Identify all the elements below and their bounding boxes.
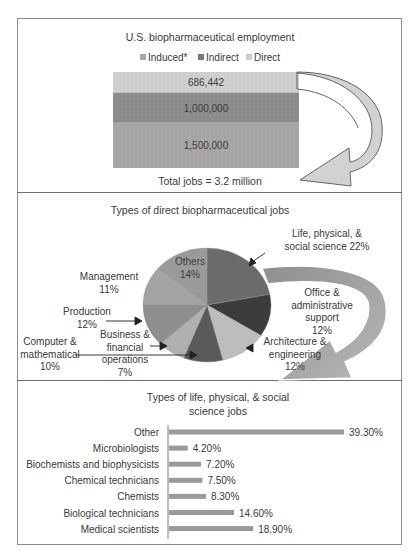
- pie-label: 14%: [180, 269, 200, 280]
- bar-value-label: 7.50%: [207, 475, 235, 486]
- chart3-title-line2: science jobs: [189, 405, 247, 417]
- employment-chart: U.S. biopharmaceutical employment Induce…: [113, 31, 382, 187]
- legend-label-indirect: Indirect: [206, 52, 239, 63]
- curved-arrow-icon: [262, 266, 386, 380]
- legend-swatch-induced: [140, 54, 146, 60]
- bar-value-label: 39.30%: [349, 427, 383, 438]
- bar: [169, 526, 253, 531]
- pie-label: Others: [175, 256, 205, 267]
- pie-label: Office &: [304, 287, 340, 298]
- legend-swatch-direct: [246, 54, 252, 60]
- bar-value-label: 14.60%: [239, 508, 273, 519]
- pie-label: 12%: [285, 361, 305, 372]
- bars: Other39.30%Microbiologists4.20%Biochemis…: [26, 427, 383, 535]
- curved-arrow-icon: [297, 72, 382, 186]
- bar: [169, 462, 201, 467]
- bar: [169, 510, 234, 515]
- pie-label: Computer &: [23, 336, 77, 347]
- arrow-icon: [249, 258, 256, 266]
- legend-swatch-indirect: [198, 54, 204, 60]
- pie-label: support: [305, 312, 339, 323]
- pie-label: 12%: [77, 319, 97, 330]
- bar: [169, 430, 344, 435]
- legend-label-induced: Induced*: [148, 52, 188, 63]
- pie-label: administrative: [291, 300, 353, 311]
- bar-value-label: 8.30%: [211, 491, 239, 502]
- pie-label: 11%: [99, 284, 118, 295]
- stacked-bar: 686,4421,000,0001,500,000: [113, 72, 299, 168]
- bar-value-label: 18.90%: [258, 524, 292, 535]
- legend-label-direct: Direct: [254, 52, 280, 63]
- pie-label: engineering: [269, 349, 321, 360]
- bar-category-label: Chemical technicians: [65, 475, 160, 486]
- bar-category-label: Biological technicians: [63, 508, 159, 519]
- stack-segment-label: 1,500,000: [184, 140, 229, 151]
- pie-label: 7%: [118, 367, 133, 378]
- pie-label: Architecture &: [264, 336, 327, 347]
- bar-category-label: Biochemists and biophysicists: [26, 459, 159, 470]
- bar: [169, 494, 206, 499]
- bar-category-label: Microbiologists: [93, 443, 159, 454]
- pie-label: 10%: [40, 361, 60, 372]
- pie-label: Life, physical, &: [292, 228, 362, 239]
- pie-label: Production: [63, 306, 111, 317]
- bar-category-label: Chemists: [117, 491, 159, 502]
- pie-label: operations: [102, 354, 149, 365]
- pie-label: Management: [80, 271, 139, 282]
- bar-category-label: Other: [134, 427, 160, 438]
- chart1-title: U.S. biopharmaceutical employment: [126, 31, 295, 43]
- pie-label: social science 22%: [284, 241, 369, 252]
- chart1-legend: Induced* Indirect Direct: [140, 52, 280, 63]
- arrow-icon: [135, 317, 142, 325]
- bar: [169, 446, 188, 451]
- bar-value-label: 7.20%: [206, 459, 234, 470]
- bar-category-label: Medical scientists: [81, 524, 159, 535]
- chart3-title-line1: Types of life, physical, & social: [147, 391, 289, 403]
- infographic-svg: U.S. biopharmaceutical employment Induce…: [0, 0, 417, 557]
- pie-label: 12%: [312, 325, 332, 336]
- chart2-title: Types of direct biopharmaceutical jobs: [111, 204, 290, 216]
- pie-label: mathematical: [20, 349, 79, 360]
- pie-label: Business &: [100, 329, 150, 340]
- bar: [169, 478, 202, 483]
- pie-label: financial: [107, 342, 144, 353]
- stack-segment-label: 686,442: [188, 77, 225, 88]
- total-jobs-annotation: Total jobs = 3.2 million: [158, 175, 262, 187]
- direct-jobs-pie-chart: Types of direct biopharmaceutical jobs L…: [20, 204, 386, 380]
- stack-segment-label: 1,000,000: [184, 103, 229, 114]
- science-jobs-bar-chart: Types of life, physical, & social scienc…: [26, 391, 383, 539]
- bar-value-label: 4.20%: [193, 443, 221, 454]
